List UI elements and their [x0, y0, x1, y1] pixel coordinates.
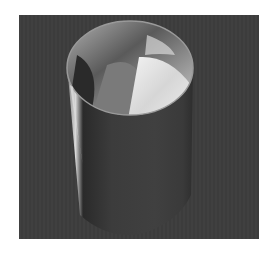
product-photo: [19, 15, 259, 239]
waste-bin-illustration: [19, 15, 259, 239]
